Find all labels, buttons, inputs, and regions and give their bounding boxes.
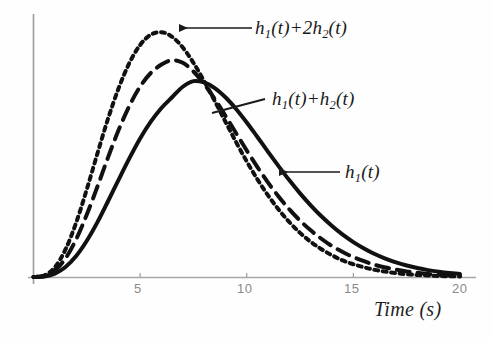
curve-2-dashed (34, 60, 461, 277)
x-tick-label-5: 5 (134, 281, 142, 296)
curve-1-solid (34, 81, 461, 277)
annotation-h1-plus-2h2: h1(t)+2h2(t) (255, 17, 347, 42)
annotation-h1-h: h (345, 161, 355, 182)
x-tick-label-15: 15 (344, 281, 359, 296)
annotation-h1-plus-h2-h: h (272, 88, 282, 109)
annotation-h1-plus-h2-mid: (t)+h (288, 88, 329, 109)
chart-figure: 5 10 15 20 Time (s) h1(t)+2h2(t) h1(t)+h… (0, 0, 492, 338)
curve-group (34, 32, 461, 277)
annotation-h1-plus-2h2-mid: (t)+2h (271, 17, 322, 38)
annotation-h1-plus-h2: h1(t)+h2(t) (272, 88, 354, 113)
annotation-h1-plus-2h2-end: (t) (329, 17, 348, 38)
annotation-h1-mid: (t) (361, 161, 380, 182)
x-tick-label-10: 10 (237, 281, 252, 296)
annotation-h1-plus-h2-end: (t) (336, 88, 355, 109)
annotation-h1: h1(t) (345, 161, 380, 186)
x-tick-label-20: 20 (452, 281, 467, 296)
curve-3-dotted (34, 32, 461, 277)
x-axis-title: Time (s) (374, 298, 441, 321)
annotation-h1-plus-2h2-h: h (255, 17, 265, 38)
